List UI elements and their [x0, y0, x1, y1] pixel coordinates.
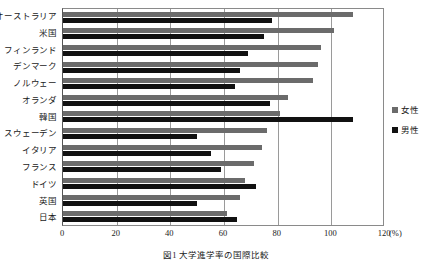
bar-female	[63, 62, 318, 67]
legend-swatch-icon	[392, 107, 398, 113]
chart-legend: 女性男性	[392, 106, 432, 145]
legend-label: 女性	[401, 106, 419, 115]
bars-layer	[63, 9, 383, 225]
category-label: スウェーデン	[0, 125, 60, 142]
bar-male	[63, 167, 221, 172]
category-label: ドイツ	[0, 176, 60, 193]
bar-male	[63, 34, 264, 39]
bar-female	[63, 195, 240, 200]
chart-caption: 図1 大学進学率の国際比較	[0, 250, 432, 261]
bar-group	[63, 175, 383, 192]
legend-item-female: 女性	[392, 106, 432, 115]
plot-area	[62, 8, 384, 226]
x-tick-label: 20	[111, 228, 120, 238]
bar-group	[63, 125, 383, 142]
bar-male	[63, 151, 211, 156]
bar-male	[63, 84, 235, 89]
category-axis: オーストラリア米国フィンランドデンマークノルウェーオランダ韓国スウェーデンイタリ…	[0, 8, 60, 226]
bar-group	[63, 208, 383, 225]
category-label: 米国	[0, 25, 60, 42]
bar-chart: オーストラリア米国フィンランドデンマークノルウェーオランダ韓国スウェーデンイタリ…	[0, 0, 432, 262]
bar-group	[63, 9, 383, 26]
bar-group	[63, 109, 383, 126]
x-tick-label: 0	[60, 228, 64, 238]
bar-female	[63, 128, 267, 133]
bar-female	[63, 111, 280, 116]
bar-male	[63, 201, 197, 206]
bar-group	[63, 92, 383, 109]
bar-female	[63, 12, 353, 17]
bar-male	[63, 101, 270, 106]
category-label: フィンランド	[0, 42, 60, 59]
category-label: フランス	[0, 159, 60, 176]
legend-item-male: 男性	[392, 126, 432, 135]
category-label: 韓国	[0, 109, 60, 126]
bar-female	[63, 95, 288, 100]
bar-male	[63, 117, 353, 122]
category-label: オランダ	[0, 92, 60, 109]
bar-male	[63, 68, 240, 73]
bar-female	[63, 178, 245, 183]
category-label: イタリア	[0, 142, 60, 159]
bar-group	[63, 192, 383, 209]
x-tick-label: 80	[272, 228, 281, 238]
legend-label: 男性	[401, 126, 419, 135]
bar-male	[63, 18, 272, 23]
x-tick-label: 60	[219, 228, 228, 238]
bar-female	[63, 45, 321, 50]
bar-group	[63, 42, 383, 59]
bar-female	[63, 78, 313, 83]
bar-group	[63, 142, 383, 159]
category-label: デンマーク	[0, 58, 60, 75]
bar-group	[63, 26, 383, 43]
bar-male	[63, 51, 248, 56]
x-tick-label: 40	[165, 228, 174, 238]
category-label: オーストラリア	[0, 8, 60, 25]
category-label: 英国	[0, 192, 60, 209]
bar-female	[63, 145, 262, 150]
legend-swatch-icon	[392, 127, 398, 133]
x-tick-label: 100	[324, 228, 337, 238]
x-axis-unit-label: (%)	[389, 228, 402, 238]
bar-male	[63, 184, 256, 189]
bar-male	[63, 217, 237, 222]
x-axis: 020406080100120(%)	[0, 228, 432, 242]
bar-female	[63, 161, 254, 166]
bar-group	[63, 75, 383, 92]
bar-group	[63, 59, 383, 76]
category-label: ノルウェー	[0, 75, 60, 92]
bar-female	[63, 28, 334, 33]
category-label: 日本	[0, 209, 60, 226]
bar-group	[63, 158, 383, 175]
bar-male	[63, 134, 197, 139]
bar-female	[63, 211, 227, 216]
